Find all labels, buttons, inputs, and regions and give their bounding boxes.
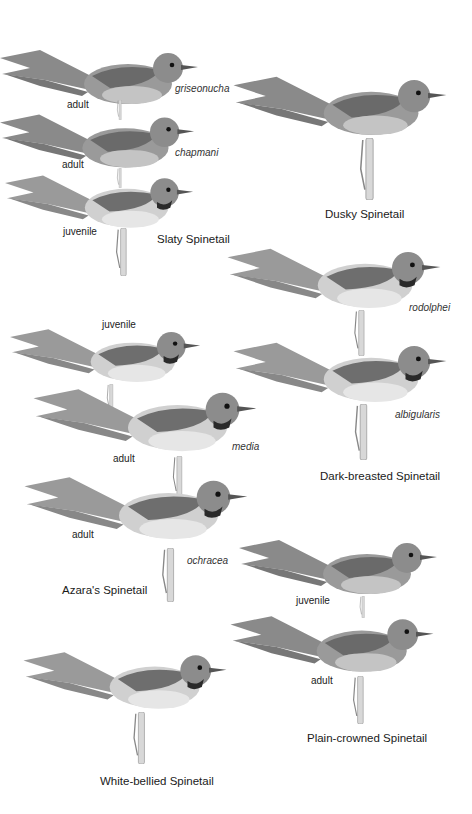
label-subspecies: rodolphei — [409, 302, 450, 313]
species-name: Dark-breasted Spinetail — [320, 470, 440, 482]
label-age: adult — [62, 159, 84, 170]
label-subspecies: griseonucha — [175, 83, 229, 94]
species-name: White-bellied Spinetail — [100, 775, 214, 787]
plain-crowned-juvenile-figure — [239, 540, 437, 594]
species-name: Plain-crowned Spinetail — [307, 732, 427, 744]
bird-plate-illustration — [0, 0, 472, 814]
plain-crowned-adult-figure — [231, 616, 434, 671]
species-name: Dusky Spinetail — [325, 208, 404, 220]
label-age: juvenile — [296, 595, 330, 606]
label-age: juvenile — [63, 226, 97, 237]
species-name: Azara's Spinetail — [62, 584, 147, 596]
label-subspecies: media — [232, 441, 259, 452]
label-subspecies: chapmani — [175, 147, 218, 158]
label-age: adult — [113, 453, 135, 464]
label-age: adult — [72, 529, 94, 540]
label-age: adult — [311, 675, 333, 686]
species-name: Slaty Spinetail — [157, 233, 230, 245]
slaty-spinetail-juvenile-figure — [5, 176, 193, 228]
slaty-spinetail-chapmani-figure — [0, 115, 194, 168]
label-age: adult — [67, 99, 89, 110]
azaras-juvenile-figure — [10, 329, 200, 382]
azaras-ochracea-figure — [25, 477, 248, 539]
white-bellied-figure — [24, 652, 227, 708]
dark-breasted-rodolphei-figure — [228, 249, 441, 308]
label-subspecies: ochracea — [187, 555, 228, 566]
label-subspecies: albigularis — [395, 409, 440, 420]
azaras-media-figure — [34, 389, 257, 451]
dusky-spinetail-figure — [234, 77, 447, 135]
slaty-spinetail-griseonucha-figure — [0, 50, 198, 104]
dark-breasted-albigularis-figure — [234, 343, 447, 402]
label-age: juvenile — [102, 319, 136, 330]
